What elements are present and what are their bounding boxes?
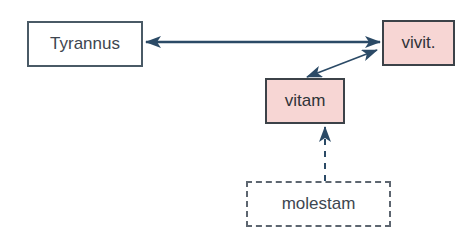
node-label: molestam xyxy=(282,194,356,214)
node-label: Tyrannus xyxy=(50,34,120,54)
node-molestam: molestam xyxy=(246,181,391,227)
node-vitam: vitam xyxy=(265,78,345,124)
node-label: vivit. xyxy=(402,33,436,53)
node-label: vitam xyxy=(285,91,326,111)
edge-vivit-vitam xyxy=(307,50,377,77)
node-vivit: vivit. xyxy=(382,20,455,66)
node-tyrannus: Tyrannus xyxy=(27,21,143,67)
